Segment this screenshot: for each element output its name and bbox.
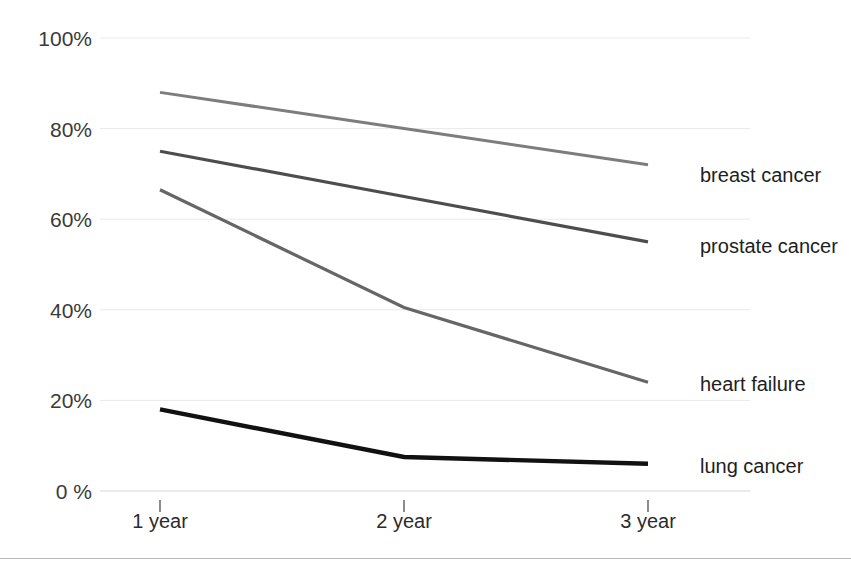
series-label-prostate-cancer: prostate cancer <box>700 236 838 256</box>
chart-page: 0 %20%40%60%80%100% 1 year2 year3 year b… <box>0 0 851 579</box>
series-label-breast-cancer: breast cancer <box>700 165 821 185</box>
series-label-lung-cancer: lung cancer <box>700 456 803 476</box>
series-end-labels: breast cancerprostate cancerheart failur… <box>0 0 851 579</box>
series-label-heart-failure: heart failure <box>700 374 806 394</box>
bottom-divider <box>0 558 851 559</box>
